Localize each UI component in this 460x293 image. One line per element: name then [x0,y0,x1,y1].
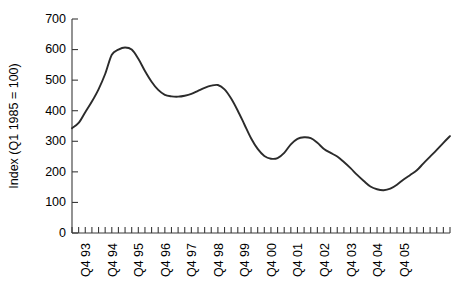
y-axis-label: Index (Q1 1985 = 100) [7,63,21,188]
x-axis-tick-labels: Q4 93Q4 94Q4 95Q4 96Q4 97Q4 98Q4 99Q4 00… [79,243,411,277]
x-tick-label: Q4 95 [132,243,146,277]
x-tick-label: Q4 01 [291,243,305,277]
y-tick-label: 300 [45,134,66,148]
x-tick-label: Q4 03 [345,243,359,277]
y-tick-label: 200 [45,165,66,179]
x-tick-label: Q4 94 [106,243,120,277]
x-tick-label: Q4 00 [265,243,279,277]
x-tick-label: Q4 04 [371,243,385,277]
y-tick-label: 700 [45,12,66,26]
y-tick-label: 400 [45,104,66,118]
data-series-group [72,47,450,190]
x-axis-ticks [72,227,450,233]
y-axis: 0100200300400500600700 [45,12,78,240]
y-tick-label: 500 [45,73,66,87]
x-axis: Q4 93Q4 94Q4 95Q4 96Q4 97Q4 98Q4 99Q4 00… [72,227,450,277]
x-tick-label: Q4 02 [318,243,332,277]
x-tick-label: Q4 93 [79,243,93,277]
x-tick-label: Q4 98 [212,243,226,277]
x-tick-label: Q4 05 [398,243,412,277]
x-tick-label: Q4 99 [238,243,252,277]
y-tick-label: 100 [45,195,66,209]
line-chart: 0100200300400500600700 Q4 93Q4 94Q4 95Q4… [0,0,460,293]
y-tick-label: 0 [59,226,66,240]
y-tick-label: 600 [45,42,66,56]
x-tick-label: Q4 96 [159,243,173,277]
x-tick-label: Q4 97 [185,243,199,277]
y-axis-tick-labels: 0100200300400500600700 [45,12,66,240]
series-line-index [72,47,450,190]
chart-canvas: 0100200300400500600700 Q4 93Q4 94Q4 95Q4… [0,0,460,293]
